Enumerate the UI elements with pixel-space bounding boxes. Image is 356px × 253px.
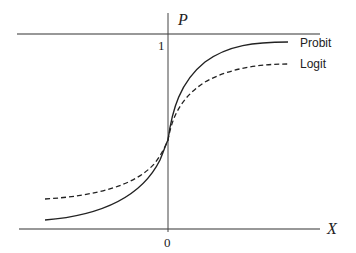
logit-curve bbox=[45, 64, 288, 199]
legend-probit: Probit bbox=[300, 36, 332, 50]
legend-logit: Logit bbox=[300, 57, 327, 71]
probit-curve bbox=[45, 42, 288, 220]
x-axis-label: X bbox=[326, 220, 338, 237]
x-tick-zero: 0 bbox=[164, 235, 171, 250]
probit-logit-chart: P 1 0 X Probit Logit bbox=[0, 0, 356, 253]
y-axis-label: P bbox=[177, 11, 188, 28]
y-tick-one: 1 bbox=[158, 38, 165, 53]
